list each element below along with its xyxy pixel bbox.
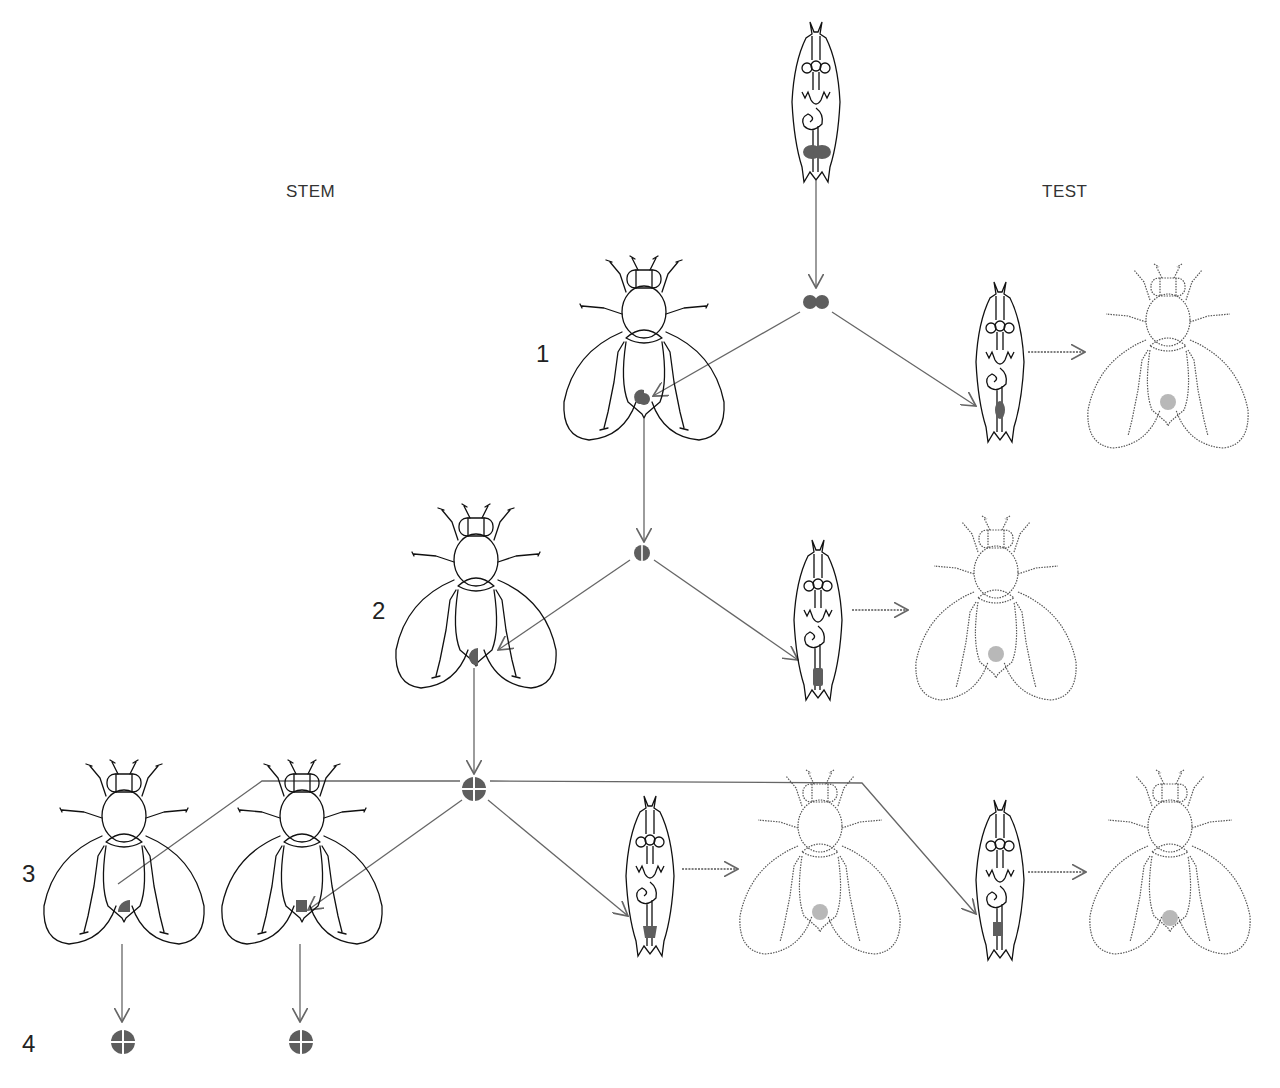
cell-cluster-stage-3 xyxy=(462,777,486,801)
cell-cluster-stage-4a xyxy=(111,1030,135,1054)
test-larva-stage-3a xyxy=(626,796,674,956)
column-label-test: TEST xyxy=(1042,182,1087,202)
arrow-cells3-to-fly3b xyxy=(308,800,462,910)
test-fly-stage-3a xyxy=(740,770,900,954)
cell-cluster-stage-4b xyxy=(289,1030,313,1054)
arrow-cells3-to-test-larva3a xyxy=(488,800,628,916)
cell-cluster-stage-1 xyxy=(803,295,829,309)
test-fly-stage-3b xyxy=(1090,770,1250,954)
stage-label-1: 1 xyxy=(536,340,549,368)
cell-cluster-stage-2 xyxy=(634,545,650,561)
stage-label-4: 4 xyxy=(22,1030,35,1058)
stage-label-2: 2 xyxy=(372,597,385,625)
branch-right xyxy=(490,781,976,914)
fly-stage-3b xyxy=(222,760,382,944)
test-larva-stage-2 xyxy=(794,540,842,700)
branch-left xyxy=(118,781,460,884)
arrow-cells1-to-test-larva1 xyxy=(832,312,976,406)
arrow-cells2-to-fly2 xyxy=(498,560,630,650)
source-larva xyxy=(792,22,840,182)
arrow-cells2-to-test-larva2 xyxy=(654,560,798,660)
column-label-stem: STEM xyxy=(286,182,335,202)
test-larva-stage-3b xyxy=(976,800,1024,960)
fly-stage-2 xyxy=(396,504,556,688)
fly-stage-3a xyxy=(44,760,204,944)
stage-label-3: 3 xyxy=(22,860,35,888)
test-larva-stage-1 xyxy=(976,282,1024,442)
lineage-diagram xyxy=(0,0,1280,1088)
test-fly-stage-1 xyxy=(1088,264,1248,448)
test-fly-stage-2 xyxy=(916,516,1076,700)
arrow-cells1-to-fly1 xyxy=(653,312,800,396)
fly-stage-1 xyxy=(564,256,724,440)
